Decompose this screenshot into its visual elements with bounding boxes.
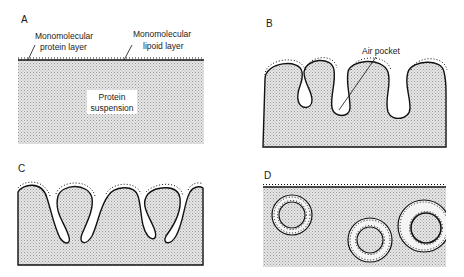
folded-surface-b [263, 60, 446, 147]
panel-d [263, 185, 450, 268]
lipoid-layer-label-line2: lipoid layer [143, 41, 184, 51]
panel-label-b: B [266, 18, 273, 29]
air-pocket-label: Air pocket [362, 46, 400, 56]
panel-label-a: A [21, 14, 28, 25]
protein-layer-label-line2: protein layer [40, 42, 87, 52]
bubble-2 [348, 218, 392, 262]
suspension-label-line1: Protein [87, 92, 137, 102]
panel-c [18, 182, 203, 265]
suspension-label-line2: suspension [87, 103, 137, 113]
protein-layer-label-line1: Monomolecular [35, 31, 93, 41]
panel-label-d: D [264, 170, 271, 181]
panel-label-c: C [18, 163, 25, 174]
folded-surface-c [18, 185, 203, 265]
lipoid-layer-label-line1: Monomolecular [133, 29, 191, 39]
lipoid-layer-pointer [124, 45, 132, 60]
bubble-1 [272, 195, 312, 235]
panel-b [263, 57, 447, 147]
bubble-3 [398, 200, 450, 252]
